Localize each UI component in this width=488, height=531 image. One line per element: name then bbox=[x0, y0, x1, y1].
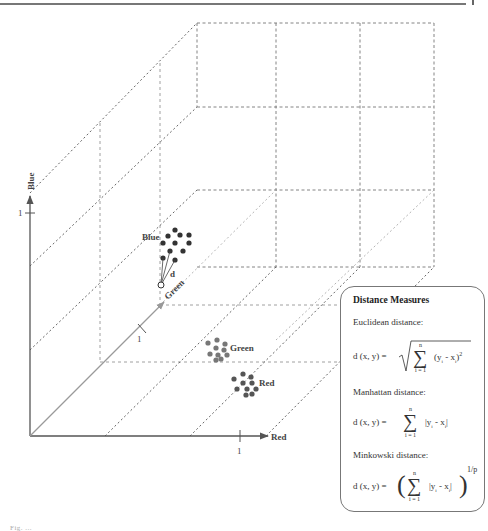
minkowski-formula: d (x, y) = ( n ∑ i = 1 |yi - xi| ) 1/p bbox=[353, 469, 478, 505]
green-axis bbox=[30, 302, 164, 436]
euclidean-formula: d (x, y) = n ∑ i = 1 (yi - xi)2 bbox=[353, 339, 478, 375]
blue-axis-tick-label: 1 bbox=[18, 208, 23, 218]
manhattan-formula: d (x, y) = n ∑ i = 1 |yi - xi| bbox=[353, 405, 478, 441]
green-axis-label: Green bbox=[162, 277, 186, 301]
blue-cluster-label: Blue bbox=[142, 232, 160, 242]
red-cluster bbox=[231, 371, 258, 397]
reference-point bbox=[158, 282, 164, 288]
green-axis-tick bbox=[138, 324, 146, 333]
figure-caption: Fig. ... bbox=[10, 524, 32, 531]
blue-cluster bbox=[160, 227, 191, 262]
measures-title: Distance Measures bbox=[353, 295, 429, 305]
red-axis-tick-label: 1 bbox=[237, 446, 242, 456]
euclidean-label: Euclidean distance: bbox=[353, 317, 423, 327]
distance-label: d bbox=[170, 269, 175, 279]
blue-axis-label: Blue bbox=[26, 172, 36, 190]
red-cluster-label: Red bbox=[259, 378, 275, 388]
distance-measures-box: Distance Measures Euclidean distance: d … bbox=[340, 286, 485, 512]
green-axis-tick-label: 1 bbox=[137, 334, 142, 344]
manhattan-label: Manhattan distance: bbox=[353, 387, 426, 397]
green-cluster-label: Green bbox=[230, 343, 254, 353]
minkowski-label: Minkowski distance: bbox=[353, 450, 428, 460]
red-axis-label: Red bbox=[271, 432, 287, 442]
cube-back-face bbox=[197, 23, 434, 267]
green-cluster bbox=[205, 337, 229, 362]
